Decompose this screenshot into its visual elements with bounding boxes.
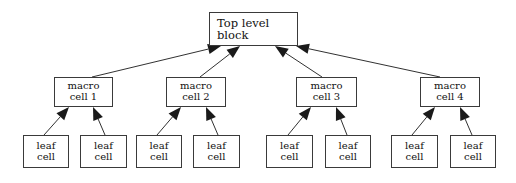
edge-line — [412, 117, 427, 135]
arrowhead-icon — [275, 46, 289, 57]
arrowhead-icon — [56, 107, 69, 120]
macro-cell-1-label-line2: cell 1 — [70, 92, 97, 103]
leaf-cell-3-label-line2: cell — [150, 152, 168, 163]
edge-leaf-cell-8-to-macro-cell-4 — [460, 107, 472, 135]
leaf-cell-1-label-line2: cell — [37, 152, 55, 163]
edge-line — [465, 119, 472, 135]
leaf-cell-7-label-line1: leaf — [405, 141, 424, 152]
leaf-cell-6[interactable]: leafcell — [325, 135, 371, 168]
leaf-cell-8[interactable]: leafcell — [450, 135, 496, 168]
edge-leaf-cell-7-to-macro-cell-4 — [412, 107, 435, 135]
edge-leaf-cell-6-to-macro-cell-3 — [336, 107, 347, 135]
edge-leaf-cell-2-to-macro-cell-1 — [93, 107, 105, 135]
arrowhead-icon — [169, 107, 181, 120]
edge-line — [92, 49, 208, 77]
macro-cell-2[interactable]: macrocell 2 — [166, 77, 226, 107]
edge-line — [286, 53, 322, 77]
leaf-cell-3-label-line1: leaf — [150, 141, 169, 152]
arrowhead-icon — [206, 107, 216, 121]
arrowhead-icon — [423, 107, 435, 120]
leaf-cell-4[interactable]: leafcell — [193, 135, 240, 168]
macro-cell-4-label-line2: cell 4 — [436, 92, 463, 103]
arrowhead-icon — [460, 107, 470, 121]
leaf-cell-1[interactable]: leafcell — [23, 135, 69, 168]
macro-cell-4[interactable]: macrocell 4 — [420, 77, 480, 107]
edge-line — [44, 117, 60, 135]
macro-cell-3[interactable]: macrocell 3 — [296, 77, 357, 107]
diagram-canvas: Top levelblockmacrocell 1macrocell 2macr… — [0, 0, 516, 183]
macro-cell-1[interactable]: macrocell 1 — [54, 77, 113, 107]
macro-cell-3-label-line2: cell 3 — [313, 92, 340, 103]
edge-macro-cell-4-to-top-level-block — [296, 44, 440, 77]
leaf-cell-4-label-line2: cell — [208, 152, 226, 163]
leaf-cell-5[interactable]: leafcell — [266, 135, 313, 168]
top-level-block[interactable]: Top levelblock — [209, 12, 298, 46]
edge-leaf-cell-1-to-macro-cell-1 — [44, 107, 69, 135]
edge-leaf-cell-5-to-macro-cell-3 — [288, 107, 311, 135]
leaf-cell-7-label-line2: cell — [406, 152, 424, 163]
leaf-cell-6-label-line1: leaf — [339, 141, 358, 152]
macro-cell-2-label-line2: cell 2 — [182, 92, 209, 103]
arrowhead-icon — [296, 44, 310, 54]
edge-line — [157, 117, 173, 135]
leaf-cell-2-label-line1: leaf — [94, 141, 113, 152]
edge-leaf-cell-4-to-macro-cell-2 — [206, 107, 218, 135]
arrowhead-icon — [227, 46, 240, 58]
edge-line — [211, 119, 218, 135]
arrowhead-icon — [336, 107, 346, 121]
edge-leaf-cell-3-to-macro-cell-2 — [157, 107, 181, 135]
arrowhead-icon — [93, 107, 103, 121]
leaf-cell-7[interactable]: leafcell — [391, 135, 438, 168]
edge-macro-cell-3-to-top-level-block — [275, 46, 322, 77]
leaf-cell-6-label-line2: cell — [339, 152, 357, 163]
edge-line — [288, 117, 303, 135]
leaf-cell-5-label-line2: cell — [281, 152, 299, 163]
edge-line — [98, 119, 105, 135]
edge-line — [341, 119, 347, 135]
leaf-cell-2-label-line2: cell — [95, 152, 113, 163]
leaf-cell-4-label-line1: leaf — [207, 141, 226, 152]
top-level-block-label-line2: block — [217, 29, 248, 41]
leaf-cell-3[interactable]: leafcell — [136, 135, 182, 168]
edge-line — [200, 54, 230, 77]
edge-macro-cell-2-to-top-level-block — [200, 46, 240, 77]
edge-line — [309, 49, 440, 77]
arrowhead-icon — [299, 107, 311, 120]
leaf-cell-8-label-line1: leaf — [464, 141, 483, 152]
leaf-cell-2[interactable]: leafcell — [80, 135, 127, 168]
leaf-cell-5-label-line1: leaf — [280, 141, 299, 152]
leaf-cell-1-label-line1: leaf — [37, 141, 56, 152]
edge-macro-cell-1-to-top-level-block — [92, 44, 221, 77]
leaf-cell-8-label-line2: cell — [464, 152, 482, 163]
